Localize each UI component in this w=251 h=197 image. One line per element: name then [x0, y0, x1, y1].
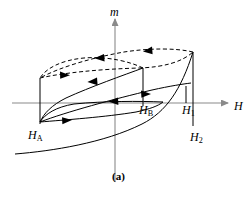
field-label-H2-subscript: 2 — [199, 136, 203, 145]
y-axis-label: m — [110, 6, 119, 18]
arrow-dashed-lower-right — [60, 72, 70, 79]
field-label-H1-base: H — [182, 103, 191, 117]
axis-group — [12, 19, 228, 182]
field-label-H1-subscript: 1 — [191, 109, 195, 118]
field-label-HB-subscript: B — [148, 109, 153, 118]
field-label-HB: HB — [139, 104, 153, 118]
field-label-HB-base: H — [139, 103, 148, 117]
arrow-inner-upper-left — [108, 97, 118, 105]
field-label-H2: H2 — [190, 131, 203, 145]
field-label-H2-base: H — [190, 130, 199, 144]
field-label-HA-subscript: A — [37, 134, 43, 143]
hysteresis-diagram — [0, 0, 251, 197]
figure-container: m H HA HB H1 H2 (a) — [0, 0, 251, 197]
field-label-HA-base: H — [28, 128, 37, 142]
mid-loop-upper-branch — [40, 68, 143, 122]
field-label-HA: HA — [28, 129, 43, 143]
x-axis-label: H — [234, 100, 243, 112]
arrow-dashed-upper-left — [143, 47, 153, 55]
arrow-inner-lower-right — [62, 117, 72, 124]
arrow-dashed-inner-left — [94, 54, 104, 62]
field-label-H1: H1 — [182, 104, 195, 118]
dashed-loop-arrowheads — [60, 47, 153, 79]
panel-label: (a) — [112, 171, 125, 182]
arrow-mid-upper-left — [87, 78, 97, 86]
